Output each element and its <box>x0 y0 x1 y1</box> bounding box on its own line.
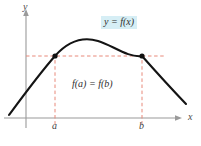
x-axis-arrow-icon <box>175 115 182 121</box>
rolles-theorem-figure: y x y = f(x) f(a) = f(b) a b <box>0 0 201 146</box>
point-b-marker <box>139 53 144 58</box>
tick-label-a: a <box>52 121 57 131</box>
point-a-marker <box>52 53 57 58</box>
x-axis-label: x <box>188 112 192 122</box>
tick-label-b: b <box>139 121 144 131</box>
equality-label: f(a) = f(b) <box>72 79 113 89</box>
y-axis-label: y <box>23 2 27 12</box>
function-equation-label: y = f(x) <box>101 16 137 29</box>
